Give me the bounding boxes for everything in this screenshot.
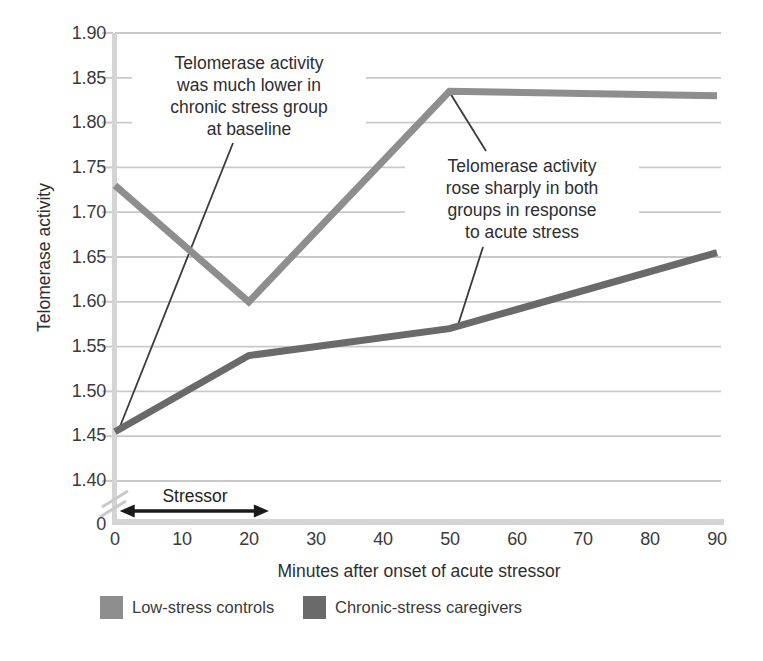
annotation-acute-note: Telomerase activity rose sharply in both… [405, 155, 639, 243]
x-tick-label: 50 [428, 529, 472, 549]
x-tick-label: 80 [628, 529, 672, 549]
x-tick-label: 70 [561, 529, 605, 549]
x-axis-title: Minutes after onset of acute stressor [169, 561, 669, 582]
x-tick-label: 90 [695, 529, 739, 549]
x-tick-label: 0 [93, 529, 137, 549]
x-tick-label: 30 [294, 529, 338, 549]
telomerase-chart-figure: 1.90 1.85 1.80 1.75 1.70 1.65 1.60 1.55 … [0, 0, 763, 661]
y-tick-label: 1.55 [46, 336, 106, 356]
y-tick-label: 1.80 [46, 112, 106, 132]
annotation-baseline-note: Telomerase activity was much lower in ch… [132, 52, 366, 140]
legend-swatch-chronic-stress-icon [303, 596, 326, 619]
y-tick-label: 1.65 [46, 247, 106, 267]
legend-label-low-stress: Low-stress controls [132, 598, 274, 617]
x-tick-label: 20 [227, 529, 271, 549]
legend-swatch-low-stress-icon [100, 596, 123, 619]
x-tick-label: 10 [160, 529, 204, 549]
y-tick-label: 1.50 [46, 381, 106, 401]
y-tick-label: 1.70 [46, 202, 106, 222]
y-tick-label: 1.60 [46, 291, 106, 311]
y-tick-label: 1.45 [46, 425, 106, 445]
y-tick-label: 1.85 [46, 68, 106, 88]
y-tick-label: 1.75 [46, 157, 106, 177]
x-tick-label: 40 [361, 529, 405, 549]
legend-item-low-stress: Low-stress controls [100, 596, 274, 619]
x-tick-label: 60 [495, 529, 539, 549]
y-tick-label: 1.90 [46, 23, 106, 43]
y-tick-label: 1.40 [46, 470, 106, 490]
legend-label-chronic-stress: Chronic-stress caregivers [335, 598, 522, 617]
legend-item-chronic-stress: Chronic-stress caregivers [303, 596, 522, 619]
y-axis-title: Telomerase activity [34, 158, 55, 358]
stressor-label: Stressor [145, 486, 245, 507]
